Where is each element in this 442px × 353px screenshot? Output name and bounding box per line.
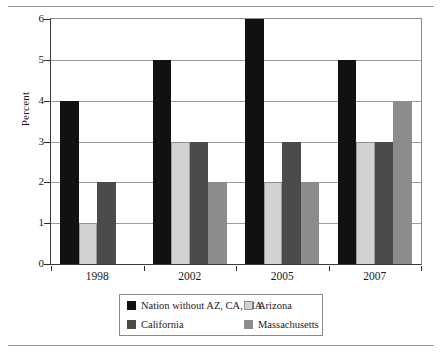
- y-axis-tick-label: 1: [14, 217, 44, 228]
- bar: [208, 182, 227, 264]
- plot-area: [50, 18, 422, 265]
- x-axis-tick-label: 2002: [160, 270, 220, 282]
- y-axis-title: Percent: [19, 74, 31, 144]
- x-axis-tick: [144, 266, 145, 271]
- legend-item-nation: Nation without AZ, CA, MA: [127, 300, 262, 311]
- legend-item-massachusetts: Massachusetts: [244, 319, 319, 330]
- bar: [282, 142, 301, 265]
- x-axis-tick: [51, 266, 52, 271]
- bar: [375, 142, 394, 265]
- legend-label-california: California: [141, 319, 184, 330]
- legend-swatch-nation-icon: [127, 301, 136, 310]
- y-axis-tick-label: 2: [14, 176, 44, 187]
- bar: [301, 182, 320, 264]
- legend-label-massachusetts: Massachusetts: [258, 319, 319, 330]
- bar: [245, 19, 264, 264]
- bar: [79, 223, 98, 264]
- legend-label-arizona: Arizona: [258, 300, 292, 311]
- bar: [60, 101, 79, 264]
- legend-item-california: California: [127, 319, 184, 330]
- legend-swatch-california-icon: [127, 320, 136, 329]
- y-axis-tick-label: 0: [14, 258, 44, 269]
- y-axis-tick-label: 3: [14, 136, 44, 147]
- x-axis-tick-label: 2007: [345, 270, 405, 282]
- y-axis-tick-label: 6: [14, 13, 44, 24]
- x-axis-tick: [329, 266, 330, 271]
- x-axis-tick: [421, 266, 422, 271]
- legend-item-arizona: Arizona: [244, 300, 292, 311]
- legend-swatch-massachusetts-icon: [244, 320, 253, 329]
- bar: [356, 142, 375, 265]
- bar: [338, 60, 357, 264]
- x-axis-tick-label: 1998: [67, 270, 127, 282]
- gridline: [51, 101, 421, 102]
- bar-chart-figure: Percent 0123456 1998200220052007 Nation …: [0, 0, 442, 353]
- y-axis-tick-label: 5: [14, 54, 44, 65]
- y-axis-tick-label: 4: [14, 95, 44, 106]
- gridline: [51, 60, 421, 61]
- bar: [97, 182, 116, 264]
- legend-swatch-arizona-icon: [244, 301, 253, 310]
- bar: [153, 60, 172, 264]
- x-axis-tick-label: 2005: [252, 270, 312, 282]
- bar: [171, 142, 190, 265]
- x-axis-tick: [236, 266, 237, 271]
- top-rule: [8, 6, 434, 7]
- bar: [264, 182, 283, 264]
- bottom-rule: [8, 345, 434, 346]
- chart-legend: Nation without AZ, CA, MA Arizona Califo…: [119, 294, 323, 336]
- bar: [393, 101, 412, 264]
- bar: [190, 142, 209, 265]
- plot-inner: [51, 19, 421, 264]
